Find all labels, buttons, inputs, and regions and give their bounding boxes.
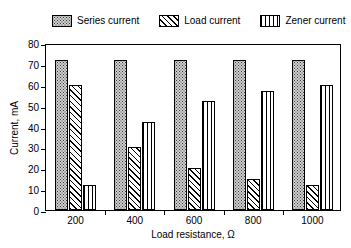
bar — [261, 91, 274, 210]
bar — [320, 85, 333, 210]
chart-legend: Series currentLoad currentZener current — [52, 11, 344, 31]
bar — [142, 122, 155, 210]
bar — [83, 185, 96, 210]
y-axis-tick — [41, 129, 46, 130]
bar — [128, 147, 141, 210]
y-axis-tick — [41, 212, 46, 213]
y-axis-title-text: Current, mA — [10, 101, 20, 155]
x-axis-tick-label: 1000 — [301, 216, 323, 226]
x-axis-tick-label: 600 — [186, 216, 203, 226]
x-axis-tick-label: 800 — [245, 216, 262, 226]
plot-inner: 010203040506070802004006008001000 — [46, 45, 340, 210]
bar — [114, 60, 127, 210]
y-axis-tick — [41, 149, 46, 150]
bar — [55, 60, 68, 210]
bar — [306, 185, 319, 210]
y-axis-title: Current, mA — [8, 44, 22, 211]
x-axis-tick-label: 200 — [67, 216, 84, 226]
x-axis-tick-label: 400 — [126, 216, 143, 226]
legend-label: Load current — [184, 16, 240, 26]
y-axis-tick — [41, 87, 46, 88]
x-axis-tick — [105, 210, 106, 215]
legend-swatch-vertical-lines-icon — [260, 15, 280, 27]
y-axis-tick — [41, 170, 46, 171]
legend-label: Zener current — [285, 16, 345, 26]
y-axis-tick-label: 80 — [28, 40, 39, 50]
y-axis-tick-label: 30 — [28, 144, 39, 154]
y-axis-tick — [41, 66, 46, 67]
legend-entry: Zener current — [260, 15, 345, 27]
bar-chart-figure: Series currentLoad currentZener current … — [0, 0, 351, 248]
y-axis-tick-label: 60 — [28, 82, 39, 92]
y-axis-tick — [41, 191, 46, 192]
x-axis-tick — [283, 210, 284, 215]
y-axis-tick-label: 40 — [28, 124, 39, 134]
bar — [233, 60, 246, 210]
bar — [247, 179, 260, 210]
bar — [202, 101, 215, 210]
x-axis-tick — [164, 210, 165, 215]
legend-entry: Series current — [52, 15, 139, 27]
x-axis-title: Load resistance, Ω — [45, 229, 341, 240]
bar — [188, 168, 201, 210]
y-axis-tick-label: 50 — [28, 103, 39, 113]
legend-label: Series current — [77, 16, 139, 26]
plot-area: 010203040506070802004006008001000 — [45, 44, 341, 211]
y-axis-tick-label: 20 — [28, 165, 39, 175]
bar — [292, 60, 305, 210]
y-axis-tick — [41, 45, 46, 46]
legend-swatch-diagonal-hatch-icon — [159, 15, 179, 27]
bar — [69, 85, 82, 210]
y-axis-tick-label: 10 — [28, 186, 39, 196]
y-axis-tick-label: 70 — [28, 61, 39, 71]
bar — [174, 60, 187, 210]
y-axis-tick — [41, 108, 46, 109]
x-axis-tick — [224, 210, 225, 215]
y-axis-tick-label: 0 — [33, 207, 39, 217]
legend-swatch-dots-icon — [52, 15, 72, 27]
legend-entry: Load current — [159, 15, 240, 27]
